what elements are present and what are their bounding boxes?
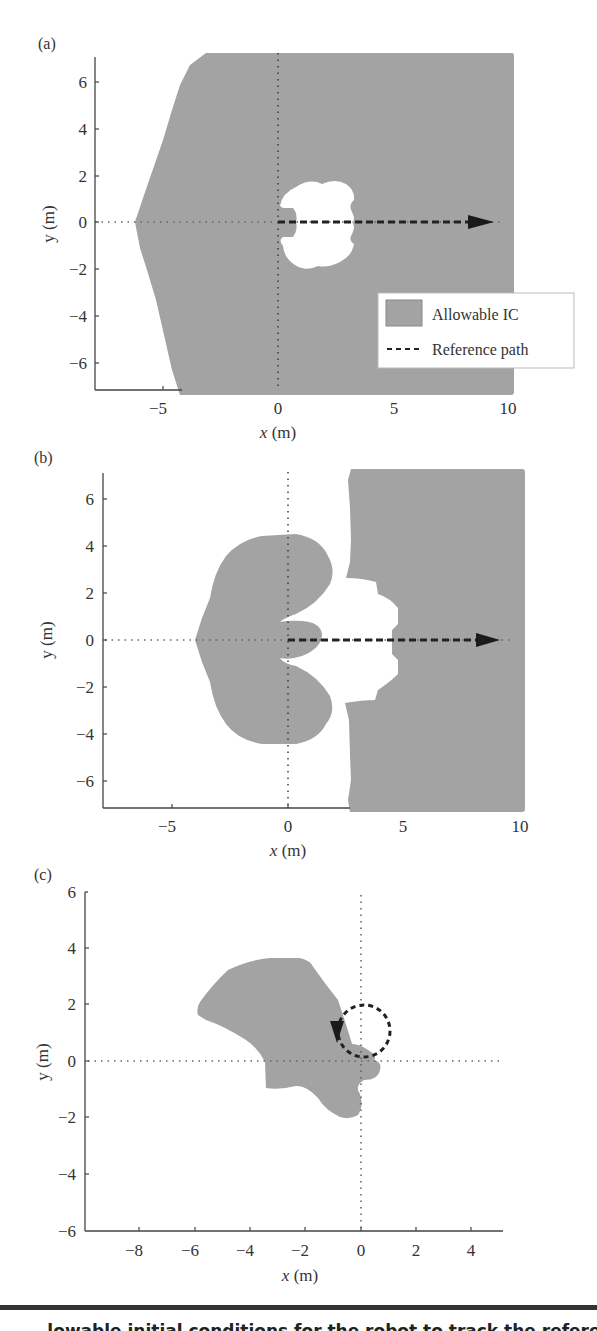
panel-c-xtick: 4: [467, 1241, 476, 1260]
panel-b-xlabel: x (m): [269, 841, 306, 860]
panel-c-ytick: −2: [58, 1108, 76, 1127]
panel-a-ylabel: y (m): [39, 205, 58, 242]
panel-b-xtick: 0: [284, 817, 293, 836]
panel-b-xtick: 10: [512, 817, 529, 836]
panel-c-xlabel: x (m): [281, 1266, 318, 1285]
panel-b-label: (b): [34, 449, 53, 467]
caption-rule: [0, 1305, 597, 1310]
panel-c-xtick: −8: [125, 1241, 143, 1260]
panel-b-ytick: −6: [76, 772, 94, 791]
panel-b-xtick: −5: [158, 817, 176, 836]
panel-a-xtick: 5: [390, 399, 399, 418]
legend-label-allowable: Allowable IC: [432, 306, 519, 323]
panel-a-ytick: −6: [69, 354, 87, 373]
panel-b-ylabel: y (m): [37, 621, 56, 658]
panel-b-ytick: −4: [76, 725, 95, 744]
panel-c-xtick: 0: [357, 1241, 366, 1260]
panel-a-legend: Allowable IC Reference path: [378, 293, 574, 368]
panel-b-ytick: 0: [86, 631, 95, 650]
legend-label-reference: Reference path: [432, 341, 528, 359]
panel-b: (b) 6 4 2 0 −2 −4 −6 −5: [34, 449, 529, 860]
panel-b-ytick: 6: [86, 490, 95, 509]
panel-a-ytick: 0: [79, 213, 88, 232]
panel-c-allowable-region: [197, 958, 380, 1118]
panel-c-ytick: 0: [68, 1052, 77, 1071]
panel-c-xtick: −4: [236, 1241, 255, 1260]
panel-c-ytick: 4: [68, 939, 77, 958]
panel-c-ytick: 6: [68, 883, 77, 902]
panel-b-ytick: 4: [86, 537, 95, 556]
panel-a-ytick: 4: [79, 120, 88, 139]
panel-c-ylabel: y (m): [33, 1043, 52, 1080]
panel-b-ytick: −2: [76, 678, 94, 697]
figure: (a) 6 4 2 0 −2 −4 −6: [0, 0, 597, 1331]
panel-c-ytick: −4: [58, 1165, 77, 1184]
panel-a-ytick: −4: [69, 307, 88, 326]
panel-c-xtick: −6: [181, 1241, 199, 1260]
panel-c-label: (c): [34, 866, 52, 884]
panel-b-xtick: 5: [399, 817, 408, 836]
panel-a-ytick: 6: [79, 73, 88, 92]
panel-a-xtick: −5: [149, 399, 167, 418]
panel-b-ytick: 2: [86, 584, 95, 603]
panel-c-xtick: −2: [291, 1241, 309, 1260]
panel-a-xlabel: x (m): [259, 423, 296, 442]
panel-c-ytick: 2: [68, 995, 77, 1014]
panel-a-xtick: 0: [274, 399, 283, 418]
panel-c-xtick: 2: [412, 1241, 421, 1260]
panel-c-ytick: −6: [58, 1222, 76, 1241]
panel-a: (a) 6 4 2 0 −2 −4 −6: [38, 35, 574, 442]
panel-a-label: (a): [38, 35, 56, 53]
panel-a-ytick: −2: [69, 260, 87, 279]
figure-caption: ...lowable initial conditions for the ro…: [0, 1318, 597, 1331]
panel-a-xtick: 10: [500, 399, 517, 418]
panel-a-ytick: 2: [79, 167, 88, 186]
legend-swatch-allowable: [386, 300, 422, 326]
panel-c: (c) 6 4 2 0 −2 −4 −6: [33, 866, 504, 1285]
